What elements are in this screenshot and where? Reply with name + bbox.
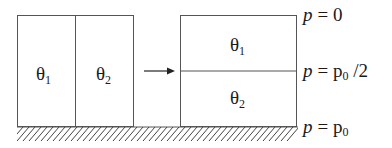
pressure-label-bottom: p= p0 [301, 116, 348, 139]
left-theta1-label: θ1 [36, 63, 51, 87]
diagram-canvas: θ1 θ2 θ1 θ2 p= 0 p= p0 /2 p= p0 [0, 0, 392, 148]
pressure-label-top: p= 0 [301, 4, 342, 25]
left-theta2-label: θ2 [96, 63, 111, 87]
right-theta1-label: θ1 [230, 34, 245, 58]
right-theta2-label: θ2 [230, 87, 245, 111]
left-box [18, 16, 134, 127]
pressure-label-middle: p= p0 /2 [301, 60, 368, 83]
right-arrow-icon [144, 68, 175, 75]
hatched-ground-icon [11, 127, 299, 141]
